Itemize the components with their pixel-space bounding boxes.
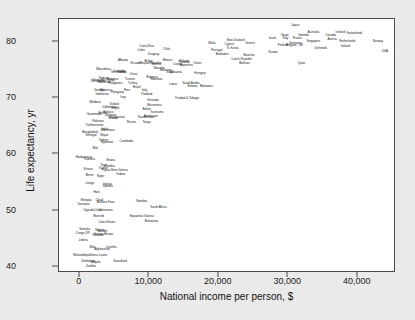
data-point-label: Haiti xyxy=(94,191,100,194)
data-point-label: Romania xyxy=(150,78,162,81)
data-point-label: Benin xyxy=(86,174,94,177)
y-tick-label: 80 xyxy=(6,36,16,46)
data-point-label: Albania xyxy=(118,59,128,62)
data-point-label: Lesotho xyxy=(106,246,117,249)
data-point-label: Macedonia xyxy=(96,68,111,71)
data-point-label: Switzerland xyxy=(347,32,362,35)
data-point-label: Moldova xyxy=(89,101,100,104)
data-point-label: Kuwait xyxy=(269,51,278,54)
data-point-label: Australia xyxy=(308,31,320,34)
y-tick-mark xyxy=(52,97,58,98)
data-point-label: Tanzania xyxy=(77,204,89,207)
data-point-label: Netherlands xyxy=(339,40,355,43)
data-point-label: Liberia xyxy=(79,239,88,242)
data-point-label: Kazakhstan xyxy=(138,117,154,120)
data-point-label: Brazil xyxy=(133,86,140,89)
data-point-label: Israel xyxy=(269,37,276,40)
x-tick-label: 0 xyxy=(76,276,81,286)
data-point-label: Greece xyxy=(245,43,255,46)
y-tick-label: 60 xyxy=(6,148,16,158)
data-point-label: Gambia xyxy=(84,158,95,161)
data-point-label: Cuba xyxy=(137,49,144,52)
data-point-label: Bahamas xyxy=(200,85,213,88)
data-point-label: Gabon xyxy=(116,173,125,176)
data-point-label: Cambodia xyxy=(120,140,134,143)
data-point-label: Iraq xyxy=(120,96,125,99)
data-point-label: Mozambique xyxy=(73,254,90,257)
scatter-chart-figure: JapanAustraliaIcelandSwitzerlandSwedenSp… xyxy=(0,0,415,320)
data-point-label: Zambia xyxy=(86,266,96,269)
data-point-label: Ireland xyxy=(341,46,350,49)
data-point-label: Peru xyxy=(124,90,130,93)
y-axis-label: Life expectancy, yr xyxy=(25,71,36,231)
data-point-label: Botswana xyxy=(145,220,158,223)
data-point-label: Oman xyxy=(193,62,201,65)
data-point-label: Burkina Faso xyxy=(97,201,115,204)
data-point-label: Bahrain xyxy=(239,62,249,65)
data-point-label: Ghana xyxy=(106,160,115,163)
y-tick-mark xyxy=(52,209,58,210)
data-point-label: Singapore xyxy=(306,40,320,43)
data-point-label: Trinidad & Tobago xyxy=(175,97,199,100)
y-tick-label: 40 xyxy=(6,261,16,271)
data-point-label: Mauritania xyxy=(101,129,115,132)
data-point-label: Djibouti xyxy=(103,186,113,189)
plot-area: JapanAustraliaIcelandSwitzerlandSwedenSp… xyxy=(58,18,395,272)
data-point-label: Russia xyxy=(127,121,136,124)
data-point-label: Eritrea xyxy=(84,168,93,171)
data-point-label: Norway xyxy=(373,40,383,43)
data-point-label: Myanmar xyxy=(101,141,114,144)
data-point-label: Ecuador xyxy=(131,62,142,65)
y-tick-mark xyxy=(52,266,58,267)
data-point-label: Chile xyxy=(163,48,170,51)
data-point-label: Nepal xyxy=(100,134,108,137)
y-tick-mark xyxy=(52,153,58,154)
data-point-label: Thailand xyxy=(141,93,152,96)
data-point-label: Belize xyxy=(145,61,153,64)
data-point-label: UK xyxy=(299,44,303,47)
data-point-label: Latvia xyxy=(169,83,177,86)
data-point-label: Philippines xyxy=(108,82,122,85)
x-axis-label: National income per person, $ xyxy=(58,291,395,302)
data-point-label: Indonesia xyxy=(96,93,109,96)
data-point-label: USA xyxy=(382,50,388,53)
data-point-label: Paraguay xyxy=(111,91,124,94)
data-point-label: Chad xyxy=(94,210,101,213)
data-point-label: Bhutan xyxy=(108,117,118,120)
data-point-label: Japan xyxy=(291,25,299,28)
data-point-label: S. Korea xyxy=(227,48,239,51)
x-tick-mark xyxy=(287,272,288,277)
data-point-label: Mexico xyxy=(163,60,173,63)
data-point-label: Malta xyxy=(208,42,215,45)
data-point-label: Finland xyxy=(278,44,288,47)
data-point-label: Samoa xyxy=(99,78,109,81)
x-tick-mark xyxy=(78,272,79,277)
data-point-label: Tonga xyxy=(142,122,150,125)
data-point-label: Cote d'Ivoire xyxy=(99,222,116,225)
data-point-label: Argentina xyxy=(180,64,193,67)
data-point-label: Belize xyxy=(142,108,150,111)
y-tick-label: 70 xyxy=(6,92,16,102)
data-point-label: Uruguay xyxy=(148,53,159,56)
data-point-label: Mali xyxy=(92,148,97,151)
y-tick-mark xyxy=(52,40,58,41)
y-tick-label: 50 xyxy=(6,205,16,215)
data-point-label: Estonia xyxy=(187,85,197,88)
x-tick-label: 30,000 xyxy=(274,276,302,286)
data-point-label: Senegal xyxy=(85,135,96,138)
data-point-label: Qatar xyxy=(298,62,306,65)
data-point-label: Namibia xyxy=(136,200,147,203)
x-tick-mark xyxy=(356,272,357,277)
x-tick-mark xyxy=(148,272,149,277)
x-tick-label: 40,000 xyxy=(343,276,371,286)
data-point-label: Colombia xyxy=(113,70,126,73)
x-tick-label: 10,000 xyxy=(135,276,163,286)
data-point-label: Lithuania xyxy=(170,71,182,74)
data-point-label: Congo DR xyxy=(76,232,90,235)
data-point-label: Barbados xyxy=(216,53,229,56)
data-point-label: South Africa xyxy=(150,206,166,209)
data-point-label: Niger xyxy=(97,175,104,178)
data-point-label: Rwanda xyxy=(92,235,103,238)
data-point-label: Austria xyxy=(327,39,336,42)
data-point-label: Denmark xyxy=(315,47,327,50)
